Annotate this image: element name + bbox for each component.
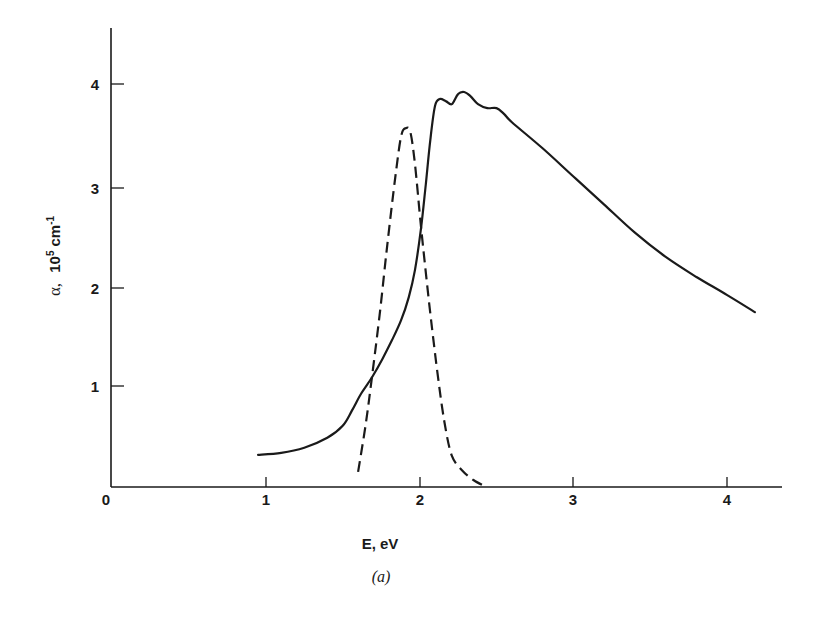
x-tick-label: 3 bbox=[569, 491, 577, 508]
absorption-chart: 1 2 3 4 0 1 2 3 4 E, eV α, 105cm-1 (a) bbox=[0, 0, 819, 620]
solid-curve bbox=[258, 92, 755, 455]
x-ticks: 0 1 2 3 4 bbox=[102, 477, 732, 508]
y-axis-label: α, 105cm-1 bbox=[45, 215, 64, 296]
dashed-curve bbox=[358, 128, 484, 486]
figure-caption: (a) bbox=[372, 568, 391, 586]
x-tick-label: 0 bbox=[102, 491, 110, 508]
x-tick-label: 1 bbox=[262, 491, 270, 508]
x-tick-label: 4 bbox=[723, 491, 732, 508]
x-axis-label: E, eV bbox=[362, 535, 399, 552]
y-tick-label: 2 bbox=[91, 280, 99, 297]
y-ticks: 1 2 3 4 bbox=[91, 76, 124, 395]
y-tick-label: 4 bbox=[91, 76, 100, 93]
x-tick-label: 2 bbox=[416, 491, 424, 508]
svg-text:α, 105cm-1: α, 105cm-1 bbox=[45, 215, 64, 296]
y-tick-label: 3 bbox=[91, 180, 99, 197]
y-tick-label: 1 bbox=[91, 378, 99, 395]
